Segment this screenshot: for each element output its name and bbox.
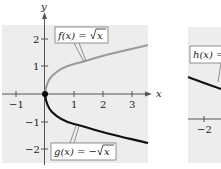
y-axis-label: y (40, 1, 47, 12)
x-axis-label: x (156, 88, 162, 99)
g-label-text: g(x) = − (54, 146, 97, 157)
x-tick-label: −1 (9, 99, 24, 110)
svg-text:x: x (104, 146, 110, 157)
graph2-x-tick-label: −2 (197, 124, 212, 135)
f-label-text: f(x) = (57, 30, 87, 41)
y-tick-label: 1 (33, 61, 39, 72)
y-axis-arrow-icon (42, 12, 47, 19)
h-label-text: h(x) = (193, 49, 221, 60)
y-tick-label: −1 (25, 117, 40, 128)
svg-text:x: x (97, 30, 103, 41)
x-axis-arrow-icon (145, 92, 152, 97)
chart-canvas: x y −1 1 2 3 2 1 −1 −2 f(x) = x g(x) = −… (0, 0, 221, 169)
origin-point (42, 91, 48, 97)
y-tick-label: 2 (33, 34, 39, 45)
y-tick-label: −2 (25, 144, 40, 155)
x-tick-label: 3 (129, 99, 135, 110)
x-tick-label: 1 (71, 99, 77, 110)
x-tick-label: 2 (100, 99, 106, 110)
